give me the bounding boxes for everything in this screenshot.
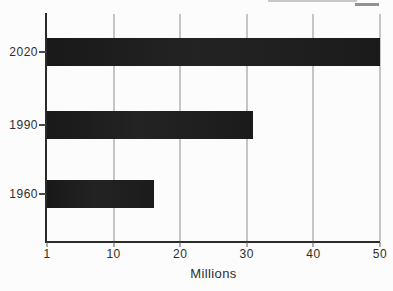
y-axis-label: 1960 <box>0 186 38 202</box>
x-axis-line <box>45 241 380 244</box>
y-axis-label: 1990 <box>0 117 38 133</box>
x-tick-label: 50 <box>373 247 387 261</box>
x-tick-label: 1 <box>43 247 50 261</box>
scanned-bar-chart-page: 11020304050 Millions 202019901960 <box>0 0 393 291</box>
x-tick-label: 40 <box>306 247 320 261</box>
x-tick-label: 20 <box>173 247 187 261</box>
bar-2020 <box>47 38 380 66</box>
bar-1960 <box>47 180 154 208</box>
y-tick-mark <box>39 124 46 126</box>
y-tick-mark <box>39 51 46 53</box>
x-tick-label: 10 <box>106 247 120 261</box>
bar-1990 <box>47 111 253 139</box>
x-tick-label: 30 <box>240 247 254 261</box>
scan-artifact-dash <box>355 3 379 6</box>
y-tick-mark <box>39 193 46 195</box>
scan-artifact-line <box>268 0 357 2</box>
plot-area: 11020304050 <box>47 13 380 241</box>
x-axis-title: Millions <box>47 266 380 281</box>
y-axis-label: 2020 <box>0 44 38 60</box>
